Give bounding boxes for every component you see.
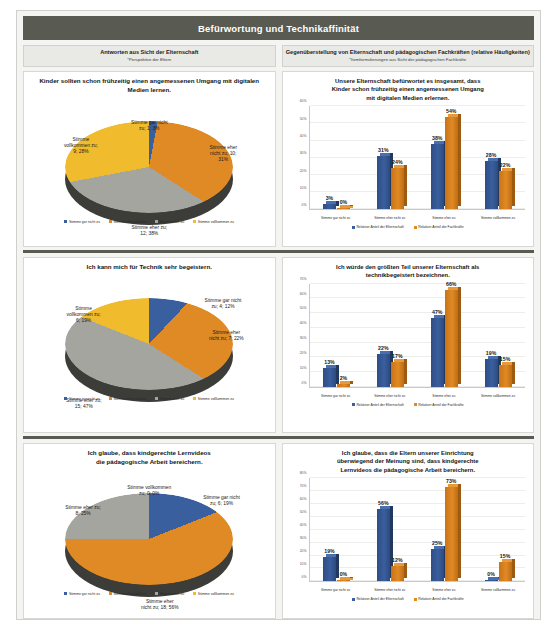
bar-groups: 3%0%31%24%38%54%28%22% [310, 106, 526, 209]
bar-side-face [458, 484, 461, 578]
legend-swatch-icon [193, 592, 196, 595]
chart-row-3: Ich glaube, dass kindgerechte Lernvideos… [23, 443, 534, 619]
x-axis-label-2: Stimme eher nicht zu [363, 588, 417, 592]
column-header-left: Antworten aus Sicht der Elternschaft *Pe… [23, 45, 276, 67]
bar-staff-4[interactable]: 15% [499, 365, 512, 387]
legend-swatch-icon [109, 592, 112, 595]
bar-staff-2[interactable]: 17% [391, 362, 404, 387]
bar-legend-3: Relativer Anteil der ElternschaftRelativ… [283, 597, 534, 601]
bar-staff-3[interactable]: 54% [445, 117, 458, 210]
bar-side-face [512, 168, 515, 206]
bar-staff-1[interactable]: 0% [337, 580, 350, 582]
bar-group-4: 28%22% [471, 106, 525, 209]
bar-staff-1[interactable]: 2% [337, 384, 350, 387]
bar-staff-2[interactable]: 12% [391, 566, 404, 581]
bar-parents-1[interactable]: 19% [323, 557, 336, 581]
pie-legend-2: Stimme gar nicht zuStimme eher nicht zuS… [24, 397, 275, 401]
bar-value-label: 12% [392, 557, 402, 563]
bar-value-label: 0% [340, 199, 348, 205]
bar-parents-3[interactable]: 38% [431, 144, 444, 209]
legend-item-4[interactable]: Stimme vollkommen zu [193, 220, 234, 224]
y-axis-tick: 30% [300, 536, 307, 540]
legend-item-series-2[interactable]: Relativer Anteil der Fachkräfte [414, 403, 464, 407]
bar-staff-4[interactable]: 15% [499, 562, 512, 581]
bar-parents-4[interactable]: 0% [485, 580, 498, 582]
legend-item-3[interactable]: Stimme eher zu [155, 592, 184, 596]
bar-value-label: 13% [324, 359, 334, 365]
legend-item-1[interactable]: Stimme gar nicht zu [64, 592, 99, 596]
legend-item-1[interactable]: Stimme gar nicht zu [64, 220, 99, 224]
bar-front-face [377, 354, 390, 386]
legend-item-series-1[interactable]: Relativer Anteil der Elternschaft [352, 403, 404, 407]
legend-item-2[interactable]: Stimme eher nicht zu [109, 592, 146, 596]
x-axis-labels: Stimme gar nicht zuStimme eher nicht zuS… [309, 588, 526, 592]
legend-label: Stimme gar nicht zu [69, 397, 100, 401]
bar-parents-2[interactable]: 22% [377, 354, 390, 386]
bar-staff-3[interactable]: 66% [445, 290, 458, 387]
bar-value-label: 24% [392, 159, 402, 165]
pie-slices[interactable] [65, 121, 233, 213]
bar-group-3: 38%54% [417, 106, 471, 209]
pie-plot-area-2: Stimme gar nichtzu; 4; 12%Stimme ehernic… [24, 272, 275, 404]
y-axis-tick: 40% [300, 321, 307, 325]
bar-front-face [337, 580, 350, 582]
legend-item-2[interactable]: Stimme eher nicht zu [109, 397, 146, 401]
legend-item-series-1[interactable]: Relativer Anteil der Elternschaft [352, 225, 404, 229]
column-headers: Antworten aus Sicht der Elternschaft *Pe… [23, 45, 534, 67]
legend-label: Stimme gar nicht zu [69, 592, 100, 596]
legend-label: Relativer Anteil der Fachkräfte [418, 403, 463, 407]
legend-swatch-icon [155, 220, 158, 223]
legend-item-2[interactable]: Stimme eher nicht zu [109, 220, 146, 224]
bar-side-face [404, 563, 407, 578]
legend-item-series-2[interactable]: Relativer Anteil der Fachkräfte [414, 225, 464, 229]
bar-parents-4[interactable]: 19% [485, 359, 498, 387]
bar-side-face [336, 201, 339, 206]
y-axis-tick: 50% [300, 306, 307, 310]
bar-front-face [377, 509, 390, 581]
bar-front-face [499, 171, 512, 209]
bar-side-face [336, 365, 339, 384]
chart-row-2: Ich kann mich für Technik sehr begeister… [23, 257, 534, 433]
legend-swatch-icon [414, 598, 417, 601]
bar-parents-2[interactable]: 56% [377, 509, 390, 581]
y-axis-tick: 30% [300, 336, 307, 340]
bar-front-face [445, 117, 458, 210]
legend-swatch-icon [352, 226, 355, 229]
legend-item-4[interactable]: Stimme vollkommen zu [193, 397, 234, 401]
bar-side-face [458, 114, 461, 207]
bar-front-face [323, 204, 336, 209]
legend-item-series-2[interactable]: Relativer Anteil der Fachkräfte [414, 597, 464, 601]
pie-slice-label-1: Stimme gar nichtzu; 4; 12% [205, 298, 242, 311]
legend-item-series-1[interactable]: Relativer Anteil der Elternschaft [352, 597, 404, 601]
bar-staff-1[interactable]: 0% [337, 208, 350, 210]
pie-slice-label-4: Stimmevollkommen zu;6; 19% [67, 306, 101, 325]
pie-chart-panel-3: Ich glaube, dass kindgerechte Lernvideos… [23, 443, 276, 619]
legend-item-4[interactable]: Stimme vollkommen zu [193, 592, 234, 596]
bar-parents-3[interactable]: 25% [431, 549, 444, 581]
bar-staff-3[interactable]: 73% [445, 487, 458, 581]
y-axis-tick: 60% [300, 497, 307, 501]
bar-staff-4[interactable]: 22% [499, 171, 512, 209]
bar-value-label: 25% [432, 540, 442, 546]
bar-group-3: 47%66% [417, 284, 471, 387]
bar-group-1: 19%0% [310, 478, 364, 581]
legend-label: Stimme eher zu [160, 592, 185, 596]
bar-parents-4[interactable]: 28% [485, 161, 498, 209]
bar-front-face [377, 156, 390, 209]
bar-side-face [336, 554, 339, 578]
bar-value-label: 0% [340, 571, 348, 577]
pie-graphic-1: Stimme gar nichtzu; 1; 3%Stimme ehernich… [65, 121, 233, 225]
bar-staff-2[interactable]: 24% [391, 168, 404, 209]
legend-item-3[interactable]: Stimme eher zu [155, 397, 184, 401]
bar-parents-2[interactable]: 31% [377, 156, 390, 209]
bar-front-face [337, 208, 350, 210]
bar-parents-1[interactable]: 13% [323, 368, 336, 387]
bar-chart-panel-1: Unsere Elternschaft befürwortet es insge… [282, 71, 535, 247]
y-axis-tick: 80% [300, 471, 307, 475]
bar-parents-1[interactable]: 3% [323, 204, 336, 209]
legend-item-1[interactable]: Stimme gar nicht zu [64, 397, 99, 401]
legend-item-3[interactable]: Stimme eher zu [155, 220, 184, 224]
bar-plot: 0%10%20%30%40%50%60%70%80%19%0%56%12%25%… [309, 478, 526, 582]
pie-slice-label-2: Stimme ehernicht zu; 10;31% [209, 145, 237, 164]
bar-parents-3[interactable]: 47% [431, 318, 444, 387]
